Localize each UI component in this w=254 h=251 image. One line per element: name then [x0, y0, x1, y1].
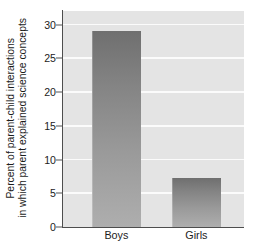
bar-chart-figure: Percent of parent-child interactions in … — [0, 0, 254, 251]
y-axis-tick-label: 20 — [44, 87, 56, 98]
y-axis-tick-label: 30 — [44, 19, 56, 30]
y-axis-tick-label: 10 — [44, 154, 56, 165]
y-axis-tick-label: 25 — [44, 53, 56, 64]
gridline — [63, 91, 244, 93]
y-axis-tick-label: 15 — [44, 120, 56, 131]
y-axis-title-line-2: in which parent explained science concep… — [18, 18, 28, 218]
bar-boys — [92, 31, 141, 227]
x-axis-category-labels: BoysGirls — [63, 230, 244, 248]
bar-girls — [172, 178, 221, 227]
bar-edge — [172, 178, 173, 227]
gridline — [63, 24, 244, 26]
x-axis-category-label-girls: Girls — [185, 230, 207, 241]
y-axis-title: Percent of parent-child interactions in … — [0, 0, 34, 236]
x-axis-category-label-boys: Boys — [104, 230, 128, 241]
gridline — [63, 57, 244, 59]
y-axis-title-line-1: Percent of parent-child interactions — [6, 38, 16, 199]
gridline — [63, 125, 244, 127]
bar-edge — [92, 31, 93, 227]
x-axis-line — [62, 227, 244, 228]
plot-area — [63, 11, 244, 227]
y-axis-tick-labels: 051015202530 — [34, 0, 56, 251]
gridline — [63, 159, 244, 161]
